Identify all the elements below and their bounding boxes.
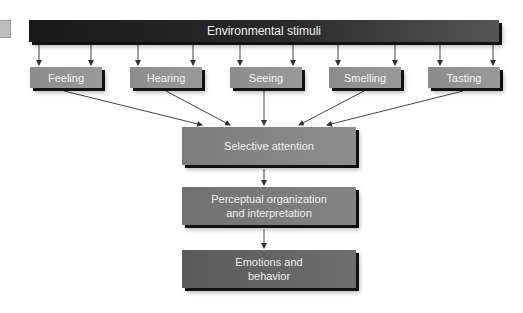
stage-label: Selective attention [224, 139, 314, 153]
sense-label: Tasting [447, 72, 482, 84]
sense-box-hearing: Hearing [130, 67, 202, 88]
stage-perceptual-organization: Perceptual organization and interpretati… [182, 187, 356, 225]
stage-label-line1: Perceptual organization [211, 193, 327, 205]
stage-selective-attention: Selective attention [182, 127, 356, 165]
stage-label: Emotions and behavior [235, 255, 302, 283]
sense-label: Hearing [147, 72, 186, 84]
stage-label-line2: behavior [248, 270, 290, 282]
sense-box-smelling: Smelling [329, 67, 401, 88]
sense-label: Smelling [344, 72, 386, 84]
sense-box-seeing: Seeing [230, 67, 302, 88]
environmental-stimuli-bar: Environmental stimuli [29, 20, 499, 42]
stage-label: Perceptual organization and interpretati… [211, 192, 327, 220]
sense-box-tasting: Tasting [428, 67, 500, 88]
sense-box-feeling: Feeling [30, 67, 102, 88]
stage-label-line1: Emotions and [235, 256, 302, 268]
partial-box-left-edge [0, 20, 11, 38]
sense-label: Seeing [249, 72, 283, 84]
environmental-stimuli-label: Environmental stimuli [207, 24, 321, 38]
stage-emotions-behavior: Emotions and behavior [182, 250, 356, 288]
stage-label-line2: and interpretation [226, 207, 312, 219]
sense-label: Feeling [48, 72, 84, 84]
